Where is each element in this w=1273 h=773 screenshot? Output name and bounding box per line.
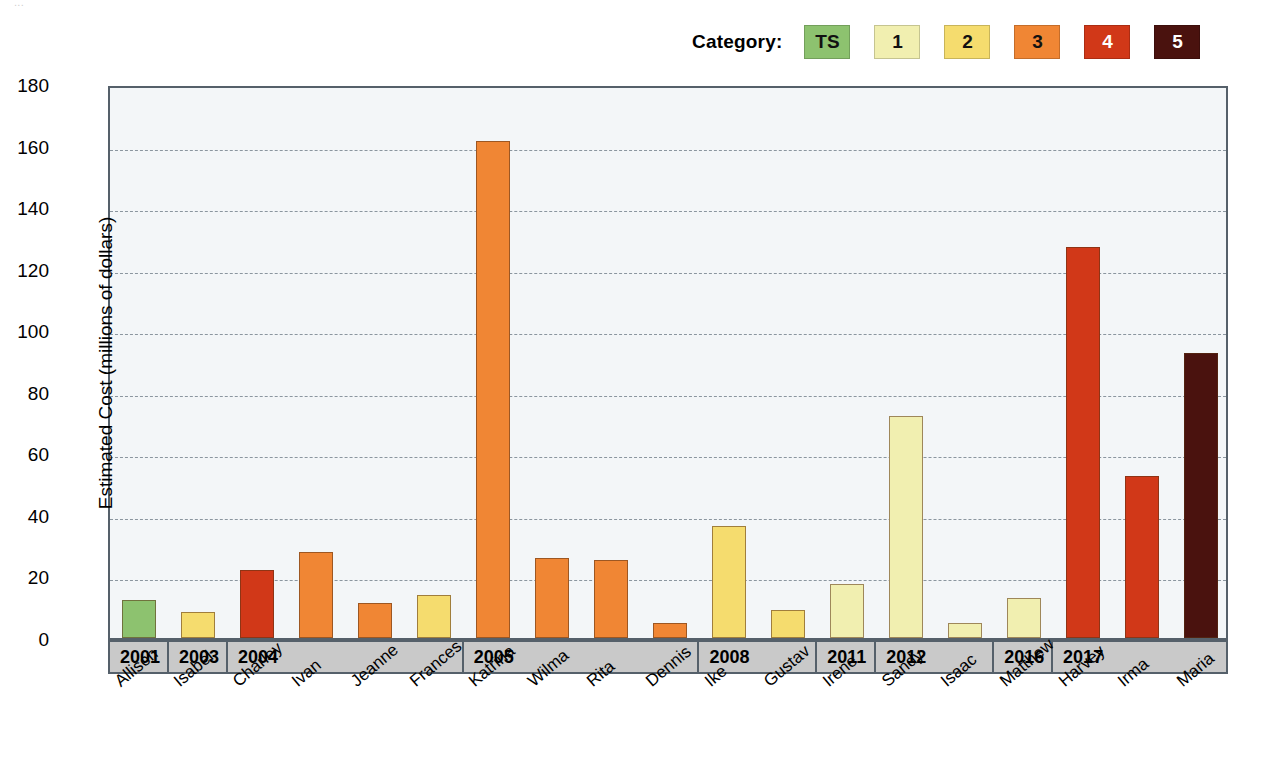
y-tick-label: 160 bbox=[0, 137, 49, 159]
legend-swatch-5: 5 bbox=[1154, 25, 1200, 59]
y-axis: Estimated Cost (millions of dollars) 020… bbox=[108, 86, 1228, 640]
legend-swatch-label: 3 bbox=[1032, 31, 1043, 53]
y-tick-label: 120 bbox=[0, 260, 49, 282]
legend-swatch-list: TS12345 bbox=[804, 25, 1200, 59]
y-axis-label: Estimated Cost (millions of dollars) bbox=[95, 103, 117, 623]
top-text-fragment: ... bbox=[14, 0, 24, 8]
y-tick-label: 0 bbox=[0, 629, 49, 651]
x-axis-tick-labels: AllisonIsabelCharleyIvanJeanneFrancesKat… bbox=[108, 676, 1228, 771]
y-tick-label: 60 bbox=[0, 444, 49, 466]
y-tick-label: 20 bbox=[0, 567, 49, 589]
y-tick-label: 100 bbox=[0, 321, 49, 343]
legend-swatch-4: 4 bbox=[1084, 25, 1130, 59]
legend-swatch-label: 2 bbox=[962, 31, 973, 53]
y-tick-label: 80 bbox=[0, 383, 49, 405]
legend-swatch-label: 5 bbox=[1172, 31, 1183, 53]
legend-title: Category: bbox=[692, 31, 782, 53]
legend-swatch-label: 1 bbox=[892, 31, 903, 53]
legend-swatch-label: TS bbox=[815, 31, 839, 53]
legend-swatch-ts: TS bbox=[804, 25, 850, 59]
legend-swatch-3: 3 bbox=[1014, 25, 1060, 59]
legend: Category: TS12345 bbox=[692, 22, 1200, 62]
legend-swatch-label: 4 bbox=[1102, 31, 1113, 53]
legend-swatch-2: 2 bbox=[944, 25, 990, 59]
y-tick-label: 40 bbox=[0, 506, 49, 528]
y-tick-label: 180 bbox=[0, 75, 49, 97]
legend-swatch-1: 1 bbox=[874, 25, 920, 59]
y-tick-label: 140 bbox=[0, 198, 49, 220]
